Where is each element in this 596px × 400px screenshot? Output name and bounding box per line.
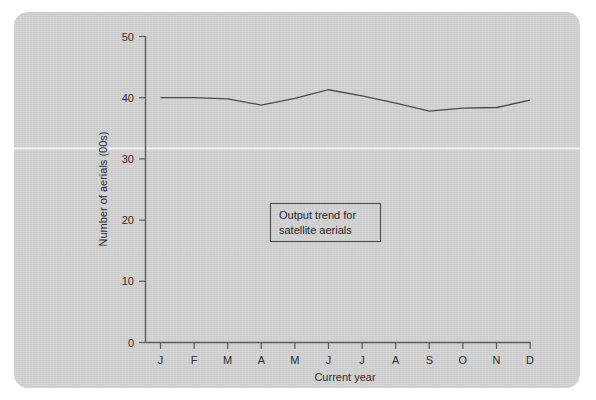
x-tick-label-aug: A — [392, 354, 400, 366]
annotation-line-1: Output trend for — [279, 209, 356, 221]
x-axis: J F M A M J J A S O N D Current year — [146, 343, 535, 384]
y-axis: 50 40 30 20 10 0 Number of aerials (00s) — [97, 31, 146, 349]
x-tick-label-apr: A — [258, 354, 266, 366]
x-tick-label-mar: M — [223, 354, 232, 366]
x-axis-title: Current year — [314, 371, 375, 383]
y-tick-label-30: 30 — [122, 153, 134, 165]
annotation-line-2: satellite aerials — [279, 224, 352, 236]
x-tick-label-jan: J — [158, 354, 164, 366]
y-tick-label-20: 20 — [122, 214, 134, 226]
x-tick-label-dec: D — [526, 354, 534, 366]
y-axis-title: Number of aerials (00s) — [97, 132, 109, 247]
x-tick-label-may: M — [290, 354, 299, 366]
x-tick-label-sep: S — [426, 354, 433, 366]
x-tick-label-feb: F — [191, 354, 198, 366]
page-root: 50 40 30 20 10 0 Number of aerials (00s) — [0, 0, 596, 400]
x-tick-label-jul: J — [359, 354, 365, 366]
y-tick-label-40: 40 — [122, 92, 134, 104]
annotation-callout: Output trend for satellite aerials — [271, 204, 381, 242]
y-tick-label-0: 0 — [128, 337, 134, 349]
y-tick-label-10: 10 — [122, 275, 134, 287]
x-tick-label-nov: N — [493, 354, 501, 366]
x-tick-label-oct: O — [459, 354, 468, 366]
x-tick-label-jun: J — [326, 354, 332, 366]
data-series-line — [161, 90, 531, 111]
line-chart: 50 40 30 20 10 0 Number of aerials (00s) — [0, 0, 596, 400]
y-tick-label-50: 50 — [122, 31, 134, 43]
